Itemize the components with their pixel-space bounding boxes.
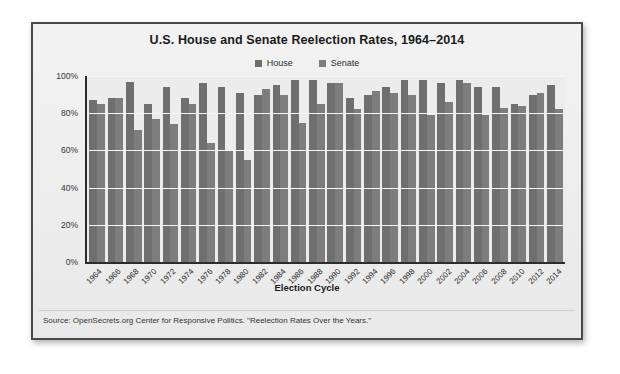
bar-group: [289, 76, 307, 262]
bar-senate[interactable]: [445, 102, 453, 262]
bar-senate[interactable]: [225, 150, 233, 262]
y-axis-tick: 60%: [61, 145, 78, 155]
y-axis-tick: 100%: [56, 71, 78, 81]
y-axis-tick: 80%: [61, 108, 78, 118]
bar-group: [125, 76, 143, 262]
bar-group: [198, 76, 216, 262]
bar-group: [88, 76, 106, 262]
bar-group: [454, 76, 472, 262]
bar-senate[interactable]: [408, 95, 416, 262]
bar-house[interactable]: [327, 83, 335, 262]
bar-house[interactable]: [254, 95, 262, 262]
chart-legend: HouseSenate: [33, 58, 581, 68]
bar-senate[interactable]: [537, 93, 545, 262]
legend-item-senate[interactable]: Senate: [319, 58, 360, 68]
bar-senate[interactable]: [372, 91, 380, 262]
bar-house[interactable]: [144, 104, 152, 262]
bar-senate[interactable]: [189, 104, 197, 262]
gridline: [87, 188, 565, 189]
chart-plot-area: 0%20%40%60%80%100% 196419661968197019721…: [51, 76, 567, 276]
bar-group: [326, 76, 344, 262]
source-caption: Source: OpenSecrets.org Center for Respo…: [43, 316, 371, 325]
x-axis-title: Election Cycle: [33, 282, 581, 293]
bar-house[interactable]: [511, 104, 519, 262]
bar-senate[interactable]: [463, 83, 471, 262]
legend-swatch-icon: [319, 60, 326, 67]
bar-group: [216, 76, 234, 262]
bar-senate[interactable]: [115, 98, 123, 262]
bar-group: [253, 76, 271, 262]
bar-group: [161, 76, 179, 262]
bar-group: [344, 76, 362, 262]
bar-house[interactable]: [456, 80, 464, 262]
bar-group: [491, 76, 509, 262]
bar-house[interactable]: [547, 85, 555, 262]
bar-senate[interactable]: [335, 83, 343, 262]
bar-group: [546, 76, 564, 262]
bar-group: [235, 76, 253, 262]
gridline: [87, 76, 565, 77]
bar-house[interactable]: [199, 83, 207, 262]
bar-house[interactable]: [273, 85, 281, 262]
legend-label: Senate: [331, 58, 360, 68]
bar-house[interactable]: [309, 80, 317, 262]
bar-senate[interactable]: [244, 160, 252, 262]
y-axis-labels: 0%20%40%60%80%100%: [51, 76, 81, 262]
plot-panel: [85, 76, 565, 264]
bar-senate[interactable]: [299, 123, 307, 263]
bar-group: [436, 76, 454, 262]
legend-item-house[interactable]: House: [255, 58, 293, 68]
bar-senate[interactable]: [262, 89, 270, 262]
y-axis-tick: 20%: [61, 220, 78, 230]
bar-senate[interactable]: [555, 109, 563, 262]
legend-swatch-icon: [255, 60, 262, 67]
bar-house[interactable]: [108, 98, 116, 262]
bar-house[interactable]: [236, 93, 244, 262]
bar-group: [418, 76, 436, 262]
bar-groups: [87, 76, 565, 262]
bar-house[interactable]: [364, 95, 372, 262]
bar-house[interactable]: [89, 100, 97, 262]
gridline: [87, 225, 565, 226]
bar-group: [509, 76, 527, 262]
bar-senate[interactable]: [500, 108, 508, 262]
bar-senate[interactable]: [518, 106, 526, 262]
bar-house[interactable]: [437, 83, 445, 262]
footer-divider: [39, 310, 575, 311]
bar-group: [271, 76, 289, 262]
bar-house[interactable]: [419, 80, 427, 262]
gridline: [87, 113, 565, 114]
bar-house[interactable]: [401, 80, 409, 262]
bar-senate[interactable]: [354, 109, 362, 262]
bar-group: [106, 76, 124, 262]
bar-group: [473, 76, 491, 262]
bar-house[interactable]: [126, 82, 134, 262]
bar-senate[interactable]: [152, 119, 160, 262]
bar-senate[interactable]: [317, 104, 325, 262]
bar-group: [399, 76, 417, 262]
bar-house[interactable]: [346, 98, 354, 262]
y-axis-tick: 0%: [66, 257, 78, 267]
bar-group: [363, 76, 381, 262]
bar-senate[interactable]: [170, 124, 178, 262]
bar-senate[interactable]: [280, 95, 288, 262]
bar-group: [381, 76, 399, 262]
chart-card: U.S. House and Senate Reelection Rates, …: [31, 22, 583, 340]
bar-group: [143, 76, 161, 262]
bar-group: [528, 76, 546, 262]
bar-senate[interactable]: [97, 104, 105, 262]
chart-title: U.S. House and Senate Reelection Rates, …: [33, 33, 581, 47]
legend-label: House: [267, 58, 293, 68]
bar-group: [308, 76, 326, 262]
bar-house[interactable]: [529, 95, 537, 262]
bar-house[interactable]: [291, 80, 299, 262]
y-axis-tick: 40%: [61, 183, 78, 193]
bar-house[interactable]: [181, 98, 189, 262]
bar-senate[interactable]: [390, 93, 398, 262]
bar-senate[interactable]: [207, 143, 215, 262]
gridline: [87, 150, 565, 151]
bar-group: [180, 76, 198, 262]
